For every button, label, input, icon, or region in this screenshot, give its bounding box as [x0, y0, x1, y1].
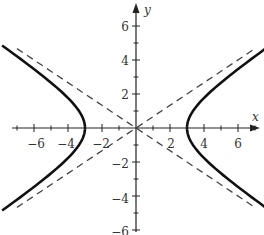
y-tick-label: −6 — [111, 225, 129, 235]
y-tick-label: 2 — [121, 88, 129, 102]
y-axis-label: y — [143, 3, 151, 17]
y-tick-label: −4 — [111, 192, 129, 206]
hyperbola-plot: x y −6 −4 −2 2 4 6 6 4 2 −2 −4 −6 — [0, 0, 264, 235]
x-tick-label: 6 — [234, 137, 242, 151]
y-tick-label: −2 — [111, 157, 129, 171]
axes — [12, 3, 260, 232]
y-tick-label: 4 — [121, 54, 129, 68]
x-axis-label: x — [252, 110, 259, 124]
x-tick-label: −2 — [92, 137, 110, 151]
x-tick-label: −6 — [27, 137, 45, 151]
x-tick-label: 2 — [167, 137, 175, 151]
y-tick-label: 6 — [121, 20, 129, 34]
y-axis-arrow-icon — [133, 3, 140, 13]
x-tick-label: −4 — [57, 137, 75, 151]
x-tick-label: 4 — [200, 137, 208, 151]
